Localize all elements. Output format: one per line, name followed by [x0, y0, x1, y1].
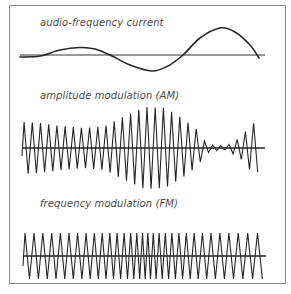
audio-waveform-panel	[20, 28, 265, 71]
audio-frequency-curve	[20, 28, 259, 71]
am-waveform-panel	[22, 107, 265, 189]
waveform-diagram	[0, 0, 291, 294]
fm-waveform-panel	[23, 233, 266, 279]
